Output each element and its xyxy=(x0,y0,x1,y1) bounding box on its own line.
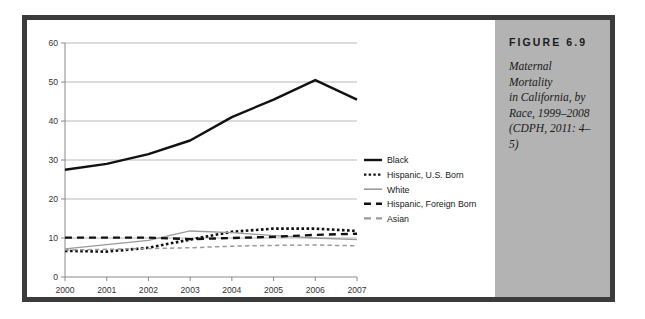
series-line xyxy=(65,245,357,250)
gridlines xyxy=(65,43,357,277)
y-tick-label: 0 xyxy=(53,272,58,282)
chart-panel: 0102030405060 20002001200220032004200520… xyxy=(27,20,495,297)
legend-label: Asian xyxy=(387,214,409,224)
x-tick-label: 2002 xyxy=(139,285,158,295)
x-tick-label: 2006 xyxy=(306,285,325,295)
legend-label: Hispanic, Foreign Born xyxy=(387,199,477,209)
y-tick-label: 50 xyxy=(48,77,58,87)
y-tick-label: 10 xyxy=(48,233,58,243)
figure-root: 0102030405060 20002001200220032004200520… xyxy=(0,0,645,319)
maternal-mortality-line-chart: 0102030405060 20002001200220032004200520… xyxy=(27,20,495,297)
figure-number: FIGURE 6.9 xyxy=(509,36,598,48)
legend-label: Hispanic, U.S. Born xyxy=(387,170,464,180)
y-tick-label: 60 xyxy=(48,38,58,48)
figure-frame: 0102030405060 20002001200220032004200520… xyxy=(22,15,615,302)
caption-line: Maternal Mortality xyxy=(509,59,598,90)
legend-label: Black xyxy=(387,155,409,165)
series-lines xyxy=(65,80,357,252)
caption-panel: FIGURE 6.9 Maternal Mortality in Califor… xyxy=(495,20,610,297)
y-axis: 0102030405060 xyxy=(48,38,65,282)
y-tick-label: 40 xyxy=(48,116,58,126)
x-tick-label: 2005 xyxy=(264,285,283,295)
x-tick-label: 2000 xyxy=(55,285,74,295)
x-tick-label: 2007 xyxy=(347,285,366,295)
x-tick-label: 2001 xyxy=(97,285,116,295)
x-tick-label: 2003 xyxy=(181,285,200,295)
caption-line: (CDPH, 2011: 4–5) xyxy=(509,121,598,152)
y-tick-label: 30 xyxy=(48,155,58,165)
caption-line: in California, by xyxy=(509,90,598,106)
x-axis: 20002001200220032004200520062007 xyxy=(55,277,366,295)
y-tick-label: 20 xyxy=(48,194,58,204)
figure-caption: Maternal Mortality in California, by Rac… xyxy=(509,59,598,152)
caption-line: Race, 1999–2008 xyxy=(509,106,598,122)
series-line xyxy=(65,80,357,170)
chart-legend: BlackHispanic, U.S. BornWhiteHispanic, F… xyxy=(364,155,477,223)
x-tick-label: 2004 xyxy=(222,285,241,295)
legend-label: White xyxy=(387,185,410,195)
